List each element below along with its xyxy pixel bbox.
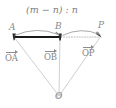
- vector-label-ob-text: OB: [44, 53, 57, 62]
- vector-label-op-text: OP: [82, 49, 94, 58]
- vector-label-oa-text: OA: [5, 54, 18, 63]
- point-label-a: A: [9, 23, 16, 32]
- ray-OP: [59, 36, 101, 96]
- vector-ratio-diagram: (m − n) : n A B P O OA OB OP: [0, 0, 116, 108]
- vector-label-op: OP: [82, 45, 94, 58]
- vector-arrow-ob-icon: [44, 49, 57, 53]
- vector-arrow-op-icon: [82, 45, 94, 49]
- vector-arrow-oa-icon: [5, 50, 18, 54]
- point-label-o: O: [55, 92, 62, 101]
- point-label-b: B: [55, 22, 62, 31]
- vector-label-oa: OA: [5, 50, 18, 63]
- ray-OA: [14, 37, 59, 96]
- vector-label-ob: OB: [44, 49, 57, 62]
- point-label-p: P: [98, 21, 104, 30]
- arc-BP: [63, 31, 100, 36]
- arc-AB: [15, 30, 59, 35]
- ratio-expression-label: (m − n) : n: [26, 5, 78, 15]
- ray-OB: [59, 36, 60, 96]
